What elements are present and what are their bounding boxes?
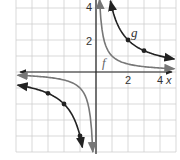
f-label: f	[102, 55, 108, 70]
x-tick-4: 4	[157, 74, 163, 86]
data-point	[46, 91, 51, 96]
g-label: g	[131, 25, 138, 40]
data-point	[62, 102, 67, 107]
coordinate-graph: 2 4 x 2 4 f g	[0, 0, 180, 160]
data-point	[78, 134, 83, 139]
y-tick-4: 4	[86, 1, 92, 13]
y-tick-2: 2	[86, 35, 92, 47]
x-axis-label: x	[165, 74, 172, 86]
x-tick-2: 2	[125, 74, 131, 86]
data-point	[142, 48, 147, 53]
data-point	[126, 38, 131, 43]
data-point	[110, 6, 115, 11]
